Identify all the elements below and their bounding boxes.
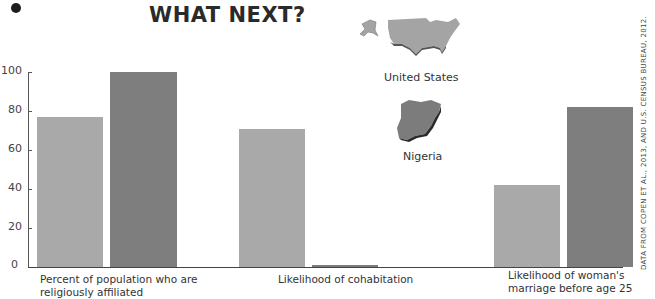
source-note: DATA FROM COPEN ET AL., 2013, AND U.S. C… [640,16,648,270]
category-label-marriage: Likelihood of woman's marriage before ag… [508,269,638,295]
bar-us-religious [37,117,103,267]
y-tick-label: 60 [0,142,22,155]
category-label-cohabitation: Likelihood of cohabitation [278,273,458,286]
y-tick [28,228,32,229]
united-states-map-icon [358,14,473,64]
y-tick-label: 80 [0,103,22,116]
bar-nigeria-marriage [567,107,633,267]
legend-label-nigeria: Nigeria [403,150,442,163]
y-tick-label: 100 [0,64,22,77]
y-tick [28,189,32,190]
y-tick [28,72,32,73]
bullet-dot [11,3,21,13]
y-tick [28,150,32,151]
y-tick-label: 0 [0,258,18,271]
legend-label-united-states: United States [384,71,459,84]
bar-us-marriage [494,185,560,267]
y-tick [28,111,32,112]
chart-title: WHAT NEXT? [149,3,306,27]
bar-nigeria-religious [110,72,177,267]
y-axis [28,72,29,268]
nigeria-map-icon [395,98,445,144]
x-axis [28,267,623,268]
y-tick-label: 40 [0,181,22,194]
category-label-religious: Percent of population who are religiousl… [40,273,200,299]
bar-us-cohabitation [239,129,305,267]
y-tick-label: 20 [0,220,22,233]
